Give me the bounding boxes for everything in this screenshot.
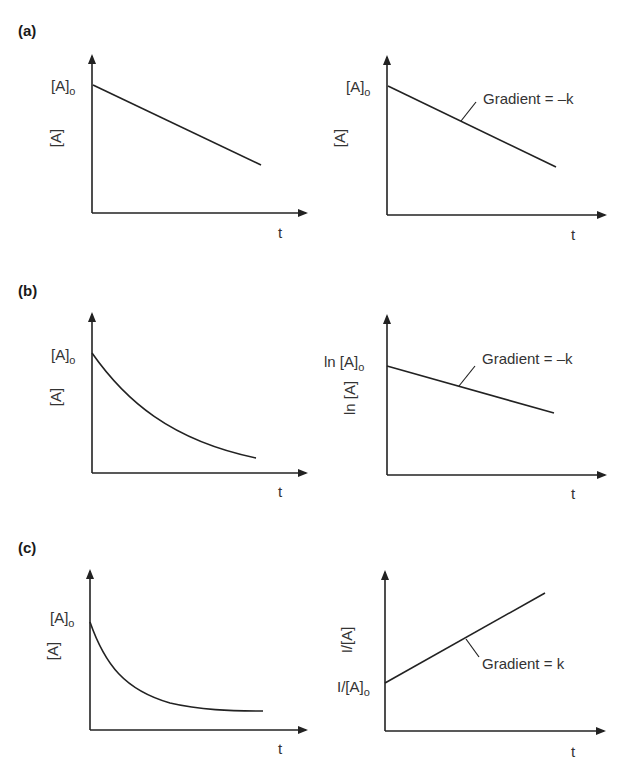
gradient-leader <box>466 639 479 657</box>
gradient-leader <box>461 102 476 121</box>
first-order-ln-line <box>387 366 554 413</box>
gradient-annotation: Gradient = k <box>482 655 565 672</box>
gradient-annotation: Gradient = –k <box>483 90 574 107</box>
x-axis-label: t <box>278 483 283 500</box>
gradient-leader <box>459 366 475 386</box>
panel-label-b: (b) <box>18 282 37 299</box>
diagram-canvas: (a) [A]o [A] t Gradient = –k [A]o [A] t … <box>0 0 622 777</box>
x-axis-label: t <box>571 226 576 243</box>
zero-order-line <box>93 85 261 165</box>
y-axis-label: [A] <box>44 642 61 660</box>
graph-c-right: Gradient = k I/[A]o I/[A] t <box>337 572 604 760</box>
gradient-annotation: Gradient = –k <box>482 350 573 367</box>
x-axis-label: t <box>571 485 576 502</box>
exponential-decay-curve <box>92 353 256 458</box>
x-axis-label: t <box>278 740 283 757</box>
y0-label: I/[A]o <box>337 678 370 698</box>
graph-a-left: [A]o [A] t <box>47 56 306 241</box>
graph-c-left: [A]o [A] t <box>44 571 306 757</box>
second-order-decay-curve <box>90 622 263 711</box>
y-axis-label: [A] <box>47 388 64 406</box>
y-axis-label: [A] <box>331 129 348 147</box>
graph-b-right: Gradient = –k ln [A]o ln [A] t <box>324 316 605 502</box>
panel-label-a: (a) <box>18 22 36 39</box>
y-axis-label: I/[A] <box>338 627 355 654</box>
panel-label-c: (c) <box>18 539 36 556</box>
y-axis-label: [A] <box>47 129 64 147</box>
x-axis-label: t <box>278 224 283 241</box>
y0-label: [A]o <box>50 609 74 629</box>
y0-label: [A]o <box>346 78 370 98</box>
y0-label: ln [A]o <box>324 353 364 373</box>
y0-label: [A]o <box>51 346 75 366</box>
graph-b-left: [A]o [A] t <box>47 314 306 500</box>
y0-label: [A]o <box>51 77 75 97</box>
x-axis-label: t <box>571 743 576 760</box>
graph-a-right: Gradient = –k [A]o [A] t <box>331 57 605 243</box>
y-axis-label: ln [A] <box>341 381 358 415</box>
